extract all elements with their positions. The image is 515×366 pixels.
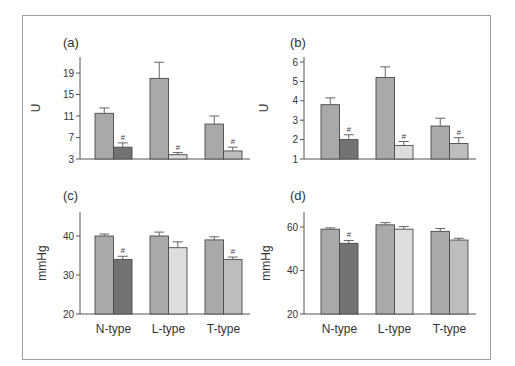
- bar-l-type-control: [150, 236, 169, 314]
- panel-label: (a): [63, 35, 79, 50]
- x-category-label: N-type: [96, 322, 132, 336]
- y-tick-label: 5: [292, 76, 298, 87]
- y-tick-label: 30: [63, 270, 75, 281]
- significance-marker: #: [176, 143, 181, 152]
- significance-marker: #: [121, 246, 126, 255]
- x-category-label: N-type: [322, 322, 358, 336]
- y-axis-title: U: [257, 104, 271, 113]
- bar-l-type-treated: [395, 145, 414, 159]
- x-category-label: T-type: [433, 322, 467, 336]
- y-tick-label: 6: [292, 57, 298, 68]
- bar-n-type-treated: [340, 243, 359, 314]
- bar-t-type-control: [205, 240, 224, 314]
- y-tick-label: 3: [68, 154, 74, 165]
- significance-marker: #: [457, 128, 462, 137]
- bar-l-type-treated: [169, 248, 188, 314]
- bar-t-type-treated: [224, 151, 243, 159]
- bar-l-type-treated: [395, 229, 414, 314]
- bar-n-type-treated: [114, 147, 133, 159]
- bar-t-type-treated: [450, 240, 469, 314]
- x-category-label: T-type: [207, 322, 241, 336]
- chart-panel-c: (c)mmHg203040#N-typeL-type#T-type: [35, 188, 250, 336]
- y-tick-label: 19: [63, 68, 75, 79]
- bar-t-type-control: [431, 231, 450, 314]
- bar-t-type-treated: [224, 259, 243, 314]
- bar-l-type-control: [150, 78, 169, 159]
- bar-t-type-control: [205, 124, 224, 159]
- bar-n-type-treated: [114, 259, 133, 314]
- bar-l-type-control: [376, 225, 395, 314]
- y-tick-label: 15: [63, 89, 75, 100]
- y-tick-label: 7: [68, 132, 74, 143]
- y-tick-label: 40: [63, 231, 75, 242]
- bar-l-type-control: [376, 78, 395, 159]
- y-tick-label: 2: [292, 134, 298, 145]
- y-tick-label: 20: [287, 309, 299, 320]
- chart-panel-b: (b)U123456###: [257, 35, 476, 165]
- y-tick-label: 60: [287, 222, 299, 233]
- bar-l-type-treated: [169, 155, 188, 159]
- bar-n-type-control: [321, 105, 340, 159]
- significance-marker: #: [121, 133, 126, 142]
- y-axis-title: mmHg: [259, 245, 273, 280]
- bar-n-type-control: [95, 113, 114, 159]
- y-tick-label: 20: [63, 309, 75, 320]
- panel-label: (b): [290, 35, 306, 50]
- significance-marker: #: [347, 230, 352, 239]
- significance-marker: #: [231, 247, 236, 256]
- panel-label: (d): [290, 188, 306, 203]
- bar-n-type-control: [321, 229, 340, 314]
- y-tick-label: 11: [64, 111, 75, 122]
- bar-n-type-treated: [340, 140, 359, 159]
- y-tick-label: 4: [292, 95, 298, 106]
- y-tick-label: 3: [292, 115, 298, 126]
- chart-panel-a: (a)U37111519###: [29, 35, 250, 165]
- y-tick-label: 1: [292, 154, 298, 165]
- bar-chart-figure: (a)U37111519###(b)U123456###(c)mmHg20304…: [0, 0, 515, 366]
- y-tick-label: 40: [287, 265, 299, 276]
- bar-t-type-control: [431, 126, 450, 159]
- x-category-label: L-type: [378, 322, 412, 336]
- x-category-label: L-type: [152, 322, 186, 336]
- panel-label: (c): [63, 188, 78, 203]
- bar-n-type-control: [95, 236, 114, 314]
- y-axis-title: U: [29, 104, 43, 113]
- significance-marker: #: [402, 132, 407, 141]
- bar-t-type-treated: [450, 143, 469, 159]
- chart-panel-d: (d)mmHg204060#N-typeL-typeT-type: [259, 188, 476, 336]
- significance-marker: #: [231, 137, 236, 146]
- y-axis-title: mmHg: [35, 245, 49, 280]
- significance-marker: #: [347, 125, 352, 134]
